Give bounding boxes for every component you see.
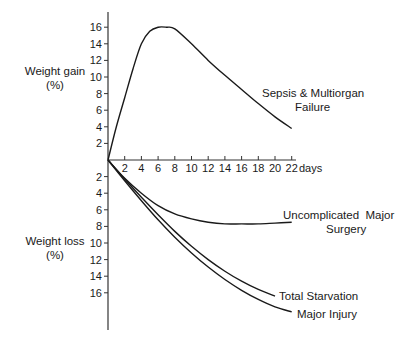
y-axis-title-loss-unit: (%) [46, 249, 64, 261]
y-tick-label-loss: 16 [90, 287, 102, 299]
y-axis-title-gain-unit: (%) [46, 79, 64, 91]
x-tick-label: 18 [252, 162, 264, 174]
x-tick-label: 22 [286, 162, 298, 174]
y-tick-label-gain: 12 [90, 54, 102, 66]
x-tick-label: 8 [172, 162, 178, 174]
x-tick-label: 10 [185, 162, 197, 174]
x-tick-label: 2 [122, 162, 128, 174]
x-tick-label: 20 [269, 162, 281, 174]
y-tick-label-loss: 12 [90, 254, 102, 266]
series-curve [108, 160, 292, 312]
x-tick-label: 4 [138, 162, 144, 174]
x-tick-label: 14 [219, 162, 231, 174]
x-tick-label: 12 [202, 162, 214, 174]
label-surgery-2: Surgery [326, 223, 367, 235]
label-sepsis-2: Failure [295, 101, 330, 113]
x-tick-label: 6 [155, 162, 161, 174]
weight-change-chart: 2468101214161820222468101214162468101214… [0, 0, 415, 341]
y-tick-label-loss: 6 [96, 204, 102, 216]
y-tick-label-loss: 8 [96, 220, 102, 232]
y-tick-label-loss: 2 [96, 171, 102, 183]
label-surgery: Uncomplicated Major [283, 209, 394, 221]
y-tick-label-gain: 2 [96, 137, 102, 149]
y-tick-label-loss: 14 [90, 270, 102, 282]
label-sepsis: Sepsis & Multiorgan [262, 87, 364, 99]
x-axis-title: days [299, 162, 323, 174]
x-tick-label: 16 [235, 162, 247, 174]
y-tick-label-loss: 4 [96, 187, 102, 199]
y-tick-label-gain: 16 [90, 21, 102, 33]
y-tick-label-gain: 14 [90, 38, 102, 50]
y-axis-title-gain: Weight gain [25, 65, 86, 77]
label-major-injury: Major Injury [297, 308, 357, 320]
y-tick-label-gain: 6 [96, 104, 102, 116]
label-total-starvation: Total Starvation [279, 290, 358, 302]
y-tick-label-gain: 4 [96, 121, 102, 133]
y-tick-label-loss: 10 [90, 237, 102, 249]
series-curve [108, 160, 275, 296]
y-tick-label-gain: 8 [96, 88, 102, 100]
y-axis-title-loss: Weight loss [25, 235, 84, 247]
y-tick-label-gain: 10 [90, 71, 102, 83]
